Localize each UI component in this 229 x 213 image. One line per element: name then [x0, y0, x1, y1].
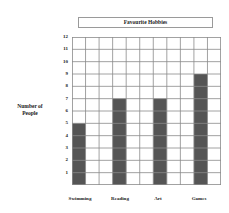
- y-tick-label: 2: [58, 157, 68, 163]
- y-tick-label: 3: [58, 145, 68, 151]
- x-tick-label: Reading: [100, 196, 140, 201]
- y-tick-label: 8: [58, 83, 68, 89]
- bar-art: [153, 99, 167, 185]
- chart-title: Favourite Hobbies: [78, 17, 213, 28]
- x-tick-label: Games: [179, 196, 219, 201]
- y-tick-label: 7: [58, 96, 68, 102]
- y-tick-label: 1: [58, 170, 68, 176]
- y-axis-label-line1: Number of: [8, 103, 52, 110]
- bar-chart: [72, 37, 221, 185]
- plot-area: [72, 37, 221, 185]
- bar-reading: [113, 99, 127, 185]
- y-tick-label: 6: [58, 108, 68, 114]
- x-tick-label: Art: [138, 196, 178, 201]
- y-axis-label-line2: People: [8, 110, 52, 117]
- bar-swimming: [72, 123, 86, 185]
- y-tick-label: 12: [58, 34, 68, 40]
- y-tick-label: 4: [58, 133, 68, 139]
- y-tick-label: 10: [58, 59, 68, 65]
- y-tick-label: 9: [58, 71, 68, 77]
- y-axis-label: Number of People: [8, 103, 52, 117]
- bar-games: [194, 74, 208, 185]
- y-tick-label: 5: [58, 120, 68, 126]
- x-tick-label: Swimming: [60, 196, 100, 201]
- y-tick-label: 11: [58, 46, 68, 52]
